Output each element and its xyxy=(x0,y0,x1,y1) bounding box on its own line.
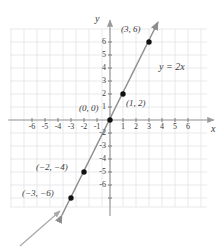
x-tick-label: -5 xyxy=(39,123,51,131)
x-tick-label: -6 xyxy=(26,123,38,131)
equation-label: y = 2x xyxy=(159,62,185,72)
point-label-neg3-neg6: (−3, −6) xyxy=(22,189,54,198)
point-neg3-neg6 xyxy=(68,195,73,200)
x-tick-label: 6 xyxy=(183,123,193,131)
y-tick-label: -6 xyxy=(94,181,106,189)
y-tick-label: -2 xyxy=(94,129,106,137)
x-tick-label: 1 xyxy=(118,123,128,131)
x-axis-label: x xyxy=(211,124,215,134)
y-tick-label: -4 xyxy=(94,155,106,163)
y-tick-label: 5 xyxy=(96,51,106,59)
x-tick-label: -2 xyxy=(78,123,90,131)
point-1-2 xyxy=(120,91,125,96)
y-tick-label: 2 xyxy=(96,90,106,98)
x-tick-label: 4 xyxy=(157,123,167,131)
x-tick-label: 2 xyxy=(131,123,141,131)
point-label-neg2-neg4: (−2, −4) xyxy=(36,163,68,172)
pointer-arrow xyxy=(20,211,60,246)
point-neg2-neg4 xyxy=(81,169,86,174)
x-tick-label: 5 xyxy=(170,123,180,131)
y-tick-label: -5 xyxy=(94,168,106,176)
y-tick-label: 3 xyxy=(96,77,106,85)
y-axis-label: y xyxy=(95,14,99,24)
y-tick-label: 6 xyxy=(96,38,106,46)
point-3-6 xyxy=(146,39,151,44)
x-tick-label: -3 xyxy=(65,123,77,131)
point-label-3-6: (3, 6) xyxy=(121,25,141,34)
point-0-0 xyxy=(107,117,112,122)
x-tick-label: 3 xyxy=(144,123,154,131)
point-label-1-2: (1, 2) xyxy=(126,99,146,108)
x-tick-label: -4 xyxy=(52,123,64,131)
point-label-0-0: (0, 0) xyxy=(79,104,99,113)
y-tick-label: 4 xyxy=(96,64,106,72)
y-tick-label: -3 xyxy=(94,142,106,150)
